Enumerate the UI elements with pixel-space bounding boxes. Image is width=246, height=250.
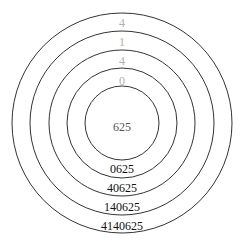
- bottom-label-ring-3: 40625: [107, 181, 137, 195]
- top-label-ring-3: 4: [119, 54, 125, 68]
- bottom-label-ring-4: 140625: [104, 200, 140, 214]
- concentric-circles-diagram: 625 0 4 1 4 0625 40625 140625 4140625: [0, 0, 246, 250]
- top-label-ring-4: 1: [119, 35, 125, 49]
- top-label-ring-2: 0: [119, 74, 125, 88]
- center-label: 625: [113, 120, 131, 134]
- bottom-label-ring-5: 4140625: [101, 219, 143, 233]
- top-label-ring-5: 4: [119, 16, 125, 30]
- bottom-label-ring-2: 0625: [110, 162, 134, 176]
